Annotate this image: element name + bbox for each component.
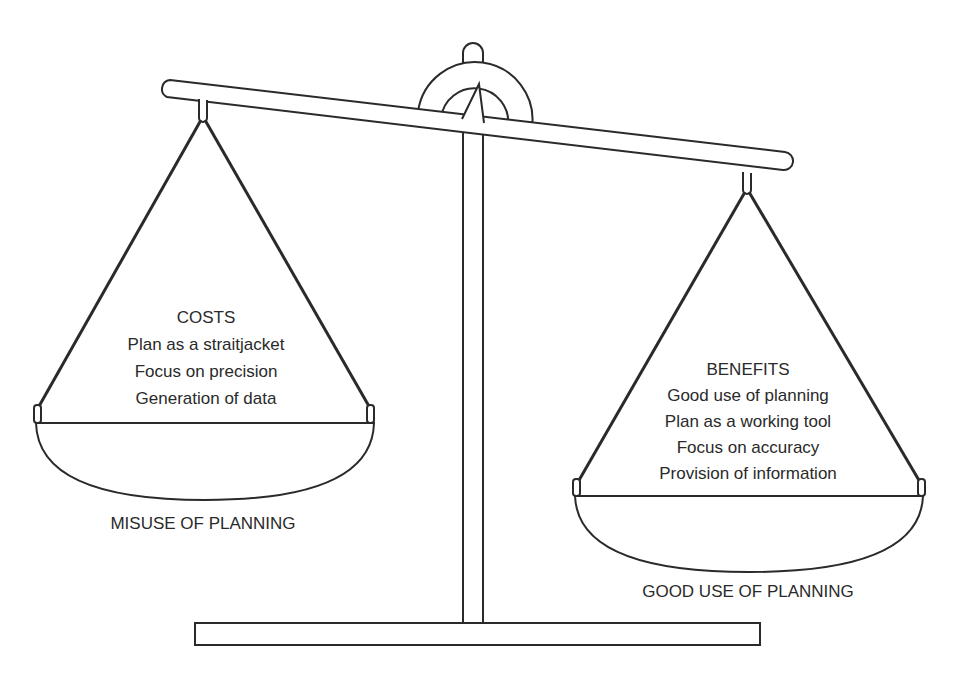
benefit-item: Good use of planning xyxy=(667,386,829,405)
cost-item: Plan as a straitjacket xyxy=(128,335,285,354)
benefit-item: Focus on accuracy xyxy=(677,438,820,457)
right-pan-caption: GOOD USE OF PLANNING xyxy=(642,582,854,601)
balance-scale-diagram: COSTS Plan as a straitjacket Focus on pr… xyxy=(0,0,961,678)
benefit-item: Plan as a working tool xyxy=(665,412,831,431)
right-pan xyxy=(573,479,925,572)
benefit-item: Provision of information xyxy=(659,464,837,483)
scale-base xyxy=(195,623,760,645)
left-pan xyxy=(34,405,374,500)
benefits-heading: BENEFITS xyxy=(706,360,789,379)
cost-item: Generation of data xyxy=(136,389,277,408)
left-hook xyxy=(199,99,207,122)
costs-heading: COSTS xyxy=(177,308,236,327)
left-pan-caption: MISUSE OF PLANNING xyxy=(110,514,295,533)
right-hook xyxy=(743,172,751,194)
cost-item: Focus on precision xyxy=(135,362,278,381)
